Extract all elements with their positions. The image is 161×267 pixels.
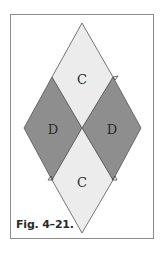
label-top-c: C: [77, 72, 87, 87]
label-right-d: D: [107, 122, 117, 137]
label-bottom-c: C: [77, 175, 87, 190]
label-left-d: D: [48, 122, 58, 137]
figure-caption: Fig. 4–21.: [16, 218, 74, 231]
